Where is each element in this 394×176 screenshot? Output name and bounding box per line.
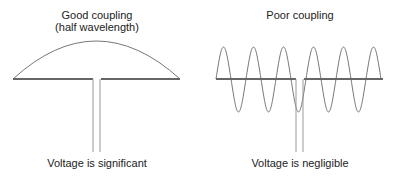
half-wave-arc [13, 41, 180, 79]
coupling-diagram [0, 0, 394, 176]
left-caption: Voltage is significant [37, 157, 157, 169]
right-caption: Voltage is negligible [240, 157, 360, 169]
